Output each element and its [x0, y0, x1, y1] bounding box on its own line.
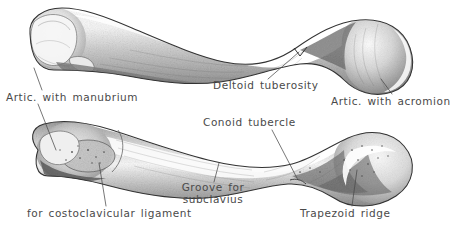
leader-manubrium-upper: [34, 68, 42, 90]
label-for-costoclavicular-ligament: for costoclavicular ligament: [27, 208, 192, 220]
label-conoid-tubercle: Conoid tubercle: [203, 117, 296, 129]
label-deltoid-tuberosity: Deltoid tuberosity: [213, 80, 319, 92]
label-groove-for-subclavius: Groove for subclavius: [176, 182, 250, 205]
label-trapezoid-ridge: Trapezoid ridge: [300, 208, 390, 220]
label-artic-with-manubrium: Artic. with manubrium: [6, 92, 138, 104]
label-artic-with-acromion: Artic. with acromion: [331, 96, 451, 108]
label-groove-line-1: Groove for: [182, 181, 245, 193]
label-groove-line-2: subclavius: [183, 193, 244, 205]
